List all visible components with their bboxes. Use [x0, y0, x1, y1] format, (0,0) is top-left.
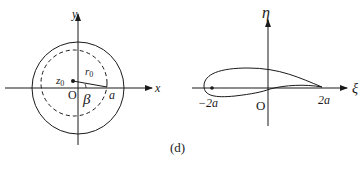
figure: y x O z0 r0 β a η ξ O −2a 2a (d)	[0, 0, 364, 175]
left-point-label: −2a	[198, 96, 218, 110]
y-axis-label: y	[71, 7, 78, 21]
angle-arc	[85, 84, 86, 88]
right-point-label: 2a	[318, 93, 330, 107]
center-label: z0	[55, 74, 64, 88]
intercept-label: a	[109, 88, 115, 102]
angle-label: β	[82, 91, 91, 107]
airfoil-curve	[204, 68, 322, 97]
figure-caption: (d)	[170, 140, 185, 155]
dashed-circle	[41, 50, 107, 116]
eta-axis-label: η	[262, 4, 270, 22]
zeta-plane-diagram: η ξ O −2a 2a	[192, 4, 358, 126]
left-point	[210, 86, 214, 90]
radius-label: r0	[85, 65, 93, 79]
x-axis-label: x	[154, 81, 161, 95]
z-plane-diagram: y x O z0 r0 β a	[5, 7, 161, 145]
xi-axis-label: ξ	[352, 81, 358, 96]
origin-label: O	[256, 98, 265, 113]
origin-label: O	[68, 88, 77, 102]
